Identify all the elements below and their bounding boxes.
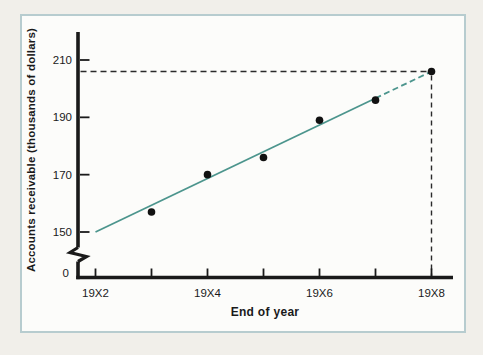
x-axis-title: End of year	[231, 305, 300, 319]
chart-frame	[20, 14, 466, 333]
figure-page: 210190170150019X219X419X619X8 Accounts r…	[0, 0, 483, 355]
y-axis-title: Accounts receivable (thousands of dollar…	[25, 28, 37, 272]
